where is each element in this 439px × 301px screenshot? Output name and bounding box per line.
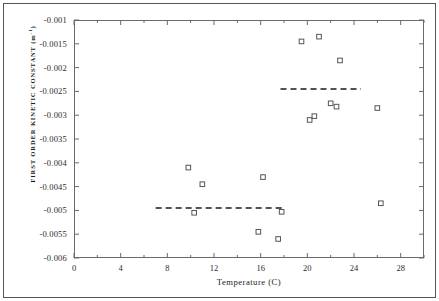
- data-point: [261, 175, 266, 180]
- x-tick-label: 0: [54, 263, 94, 273]
- x-tick-label: 16: [241, 263, 281, 273]
- data-point: [307, 118, 312, 123]
- data-point: [334, 104, 339, 109]
- y-tick-label: -0.0035: [39, 134, 67, 144]
- x-tick-label: 12: [194, 263, 234, 273]
- y-tick-label: -0.005: [44, 205, 67, 215]
- x-tick-label: 8: [147, 263, 187, 273]
- data-point: [186, 165, 191, 170]
- reference-lines: [156, 89, 361, 208]
- x-tick-label: 20: [287, 263, 327, 273]
- data-point: [279, 210, 284, 215]
- figure-container: -0.001-0.0015-0.002-0.0025-0.003-0.0035-…: [0, 0, 439, 301]
- data-point: [276, 237, 281, 242]
- axis-ticks: [74, 20, 424, 258]
- y-tick-label: -0.0055: [39, 229, 67, 239]
- data-point: [312, 114, 317, 119]
- data-point: [299, 39, 304, 44]
- y-tick-label: -0.0045: [39, 182, 67, 192]
- x-axis-label: Temperature (C): [74, 277, 424, 287]
- data-point: [317, 34, 322, 39]
- data-points: [186, 34, 383, 241]
- data-point: [375, 106, 380, 111]
- x-tick-label: 24: [334, 263, 374, 273]
- y-tick-label: -0.004: [44, 158, 67, 168]
- y-tick-label: -0.002: [44, 63, 67, 73]
- data-point: [328, 101, 333, 106]
- y-axis-label: FIRST ORDER KINETIC CONSTANT (m-1): [28, 9, 36, 199]
- y-tick-label: -0.001: [44, 15, 67, 25]
- y-tick-label: -0.0025: [39, 86, 67, 96]
- data-point: [200, 182, 205, 187]
- data-point: [379, 201, 384, 206]
- data-point: [192, 210, 197, 215]
- x-tick-label: 28: [381, 263, 421, 273]
- y-tick-label: -0.0015: [39, 39, 67, 49]
- y-tick-label: -0.006: [44, 253, 67, 263]
- data-point: [338, 58, 343, 63]
- x-tick-label: 4: [101, 263, 141, 273]
- y-tick-label: -0.003: [44, 110, 67, 120]
- data-point: [256, 230, 261, 235]
